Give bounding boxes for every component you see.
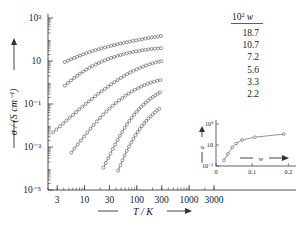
legend-item-3.3: 3.3 bbox=[247, 77, 259, 87]
data-point bbox=[82, 70, 85, 73]
data-point bbox=[146, 82, 149, 85]
data-point bbox=[73, 56, 76, 59]
x-axis-title-group: T / K bbox=[98, 206, 192, 217]
data-point bbox=[108, 107, 111, 110]
series-3.3 bbox=[102, 91, 162, 169]
data-point bbox=[55, 128, 58, 131]
data-point bbox=[136, 130, 139, 133]
series-2.2 bbox=[117, 107, 161, 172]
data-point bbox=[116, 43, 119, 46]
data-point bbox=[137, 108, 140, 111]
data-point bbox=[141, 65, 144, 68]
data-point bbox=[147, 37, 150, 40]
x-axis-ticks: 3103010030010003000 bbox=[48, 185, 224, 205]
data-point bbox=[126, 73, 129, 76]
y-tick-label: 10⁻¹ bbox=[24, 99, 42, 109]
inset-y-tick-label: 10³ bbox=[205, 120, 213, 127]
sigma-vs-temperature-chart: 10⁻⁵10⁻³10⁻¹1010³3103010030010003000σ / … bbox=[0, 0, 304, 228]
data-point bbox=[113, 44, 116, 47]
legend-item-5.6: 5.6 bbox=[247, 65, 259, 75]
series-line bbox=[71, 80, 160, 153]
data-point bbox=[63, 60, 66, 63]
data-point bbox=[75, 111, 78, 114]
data-point bbox=[114, 101, 117, 104]
x-tick-label: 1000 bbox=[180, 195, 199, 205]
data-point bbox=[99, 116, 102, 119]
data-point bbox=[66, 59, 69, 62]
y-tick-label: 10⁻⁵ bbox=[23, 185, 41, 195]
data-point bbox=[119, 54, 122, 57]
data-point bbox=[116, 139, 119, 142]
data-point bbox=[78, 108, 81, 111]
inset-data-point bbox=[231, 146, 234, 149]
data-point bbox=[91, 65, 94, 68]
data-point bbox=[135, 39, 138, 42]
data-point bbox=[69, 58, 72, 61]
data-point bbox=[85, 68, 88, 71]
y-tick-label: 10³ bbox=[29, 13, 42, 23]
data-point bbox=[97, 92, 100, 95]
data-point bbox=[100, 90, 103, 93]
x-tick-label: 3 bbox=[55, 195, 60, 205]
data-point bbox=[150, 36, 153, 39]
data-point bbox=[138, 38, 141, 41]
data-point bbox=[132, 69, 135, 72]
data-point bbox=[145, 64, 148, 67]
data-point bbox=[138, 49, 141, 52]
inset-data-point bbox=[241, 139, 244, 142]
data-point bbox=[138, 127, 141, 130]
data-point bbox=[111, 147, 114, 150]
inset-y-title: σ bbox=[198, 146, 205, 150]
data-point bbox=[76, 74, 79, 77]
data-point bbox=[125, 41, 128, 44]
data-point bbox=[71, 113, 74, 116]
y-axis-title: σ / (S cm⁻¹) bbox=[8, 88, 20, 135]
data-point bbox=[140, 125, 143, 128]
data-point bbox=[79, 54, 82, 57]
x-tick-label: 100 bbox=[130, 195, 145, 205]
data-point bbox=[153, 47, 156, 50]
data-point bbox=[151, 62, 154, 65]
legend-header: 102w bbox=[232, 11, 254, 23]
x-tick-label: 10 bbox=[80, 195, 90, 205]
data-point bbox=[119, 164, 122, 167]
data-point bbox=[68, 116, 71, 119]
legend-item-2.2: 2.2 bbox=[247, 89, 259, 99]
data-point bbox=[122, 41, 125, 44]
inset-data-point bbox=[223, 159, 226, 162]
data-point bbox=[158, 107, 161, 110]
data-point bbox=[100, 60, 103, 63]
data-point bbox=[138, 66, 141, 69]
data-point bbox=[121, 159, 124, 162]
data-point bbox=[104, 162, 107, 165]
data-point bbox=[107, 157, 110, 160]
data-point bbox=[113, 81, 116, 84]
data-point bbox=[52, 131, 55, 134]
data-point bbox=[156, 35, 159, 38]
data-point bbox=[107, 45, 110, 48]
data-point bbox=[159, 79, 162, 82]
data-point bbox=[128, 120, 131, 123]
data-point bbox=[160, 47, 163, 50]
data-point bbox=[94, 49, 97, 52]
series-10.7 bbox=[63, 47, 162, 87]
data-point bbox=[110, 56, 113, 59]
inset-x-tick-label: 0 bbox=[214, 168, 217, 175]
data-point bbox=[141, 38, 144, 41]
legend: 102w18.710.77.25.63.32.2 bbox=[231, 11, 263, 100]
data-point bbox=[79, 72, 82, 75]
data-point bbox=[116, 54, 119, 57]
data-point bbox=[107, 58, 110, 61]
data-point bbox=[83, 135, 86, 138]
data-point bbox=[110, 83, 113, 86]
data-point bbox=[114, 143, 117, 146]
data-point bbox=[130, 141, 133, 144]
data-point bbox=[103, 87, 106, 90]
data-point bbox=[76, 55, 79, 58]
inset-x-tick-label: 0.2 bbox=[285, 168, 293, 175]
data-point bbox=[135, 68, 138, 71]
y-axis-arrowhead-icon bbox=[11, 38, 17, 45]
data-point bbox=[73, 147, 76, 150]
data-point bbox=[63, 84, 66, 87]
data-point bbox=[91, 50, 94, 53]
